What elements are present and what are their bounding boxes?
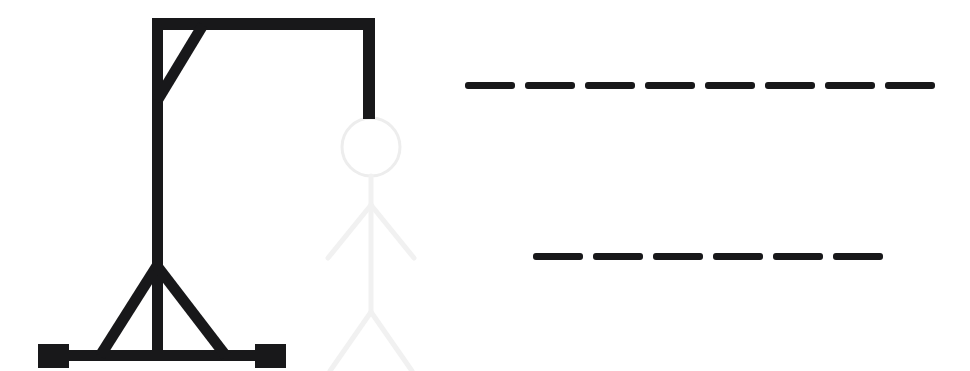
word-blank[interactable] [533,253,583,260]
word-blank[interactable] [765,82,815,89]
word-blank[interactable] [653,253,703,260]
word-blank[interactable] [593,253,643,260]
hangman-gallows-group [38,18,375,368]
word-blank-row [533,253,883,260]
word-blank-row [465,82,935,89]
gallows-foot-left [38,344,69,368]
figure-head [342,118,400,176]
hangman-game [0,0,970,371]
word-blank[interactable] [833,253,883,260]
hangman-drawing-svg [0,0,450,371]
word-blank[interactable] [645,82,695,89]
word-blank[interactable] [705,82,755,89]
gallows-top-beam [152,18,375,30]
gallows-foot-right [255,344,286,368]
word-blank[interactable] [713,253,763,260]
gallows-brace-right [157,266,226,356]
figure-leg-left [330,312,371,371]
gallows-upright-post [152,18,163,361]
figure-arm-right [371,205,414,258]
hangman-word-area [450,0,970,371]
word-blank[interactable] [585,82,635,89]
word-blank[interactable] [825,82,875,89]
hangman-figure-group [328,118,414,371]
word-blank[interactable] [885,82,935,89]
figure-leg-right [371,312,412,371]
word-blank[interactable] [525,82,575,89]
word-blank[interactable] [773,253,823,260]
gallows-top-brace [157,25,203,101]
gallows-brace-left [100,266,157,356]
word-blank[interactable] [465,82,515,89]
hangman-drawing-area [0,0,450,371]
figure-arm-left [328,205,371,258]
gallows-rope [363,18,375,119]
